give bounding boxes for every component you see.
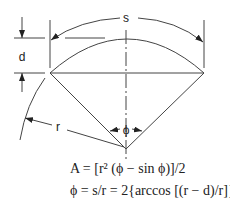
circular-segment-diagram: s d r ϕ A = [r² (ϕ − sin ϕ)]/2 ϕ = s/r =… — [0, 0, 230, 209]
r-label: r — [56, 120, 60, 134]
phi-arrow-right — [132, 129, 142, 131]
segment-arc — [50, 39, 204, 73]
d-label: d — [19, 50, 26, 64]
s-arc-left — [51, 18, 120, 40]
phi-arrow-left — [110, 129, 120, 131]
s-arc-right — [138, 18, 203, 42]
phi-label: ϕ — [123, 123, 130, 137]
radius-arc — [20, 78, 45, 140]
r-leader-a — [25, 118, 52, 125]
s-label: s — [123, 11, 129, 25]
right-radius — [126, 73, 204, 149]
left-radius — [50, 73, 126, 149]
area-formula: A = [r² (ϕ − sin ϕ)]/2 — [70, 161, 186, 177]
angle-formula: ϕ = s/r = 2{arccos [(r − d)/r]} — [70, 183, 230, 199]
segment-drawing: s d r ϕ — [0, 0, 230, 209]
